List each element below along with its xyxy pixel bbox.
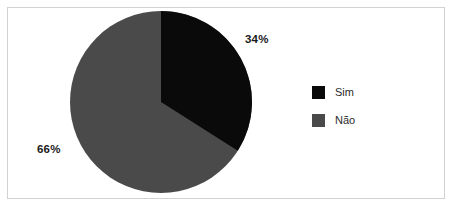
legend-item-sim[interactable]: Sim [312, 78, 422, 106]
pie-chart-graphic [66, 7, 258, 199]
pie-chart-figure: 34% 66% Sim Não [0, 0, 454, 209]
legend-item-nao[interactable]: Não [312, 106, 422, 134]
legend-label-sim: Sim [335, 86, 354, 99]
plot-area: 34% 66% Sim Não [0, 0, 454, 209]
data-label-sim-percent: 34% [245, 33, 269, 45]
legend-label-nao: Não [335, 114, 355, 127]
chart-legend: Sim Não [312, 78, 422, 134]
legend-swatch-nao-icon [312, 114, 325, 127]
data-label-nao-percent: 66% [37, 143, 61, 155]
legend-swatch-sim-icon [312, 86, 325, 99]
